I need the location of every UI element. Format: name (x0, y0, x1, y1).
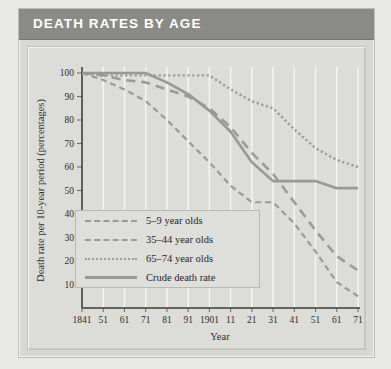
legend-item-crude: Crude death rate (76, 268, 259, 287)
legend-label-5-9: 5–9 year olds (146, 215, 203, 226)
legend-label-65-74: 65–74 year olds (146, 253, 213, 264)
svg-text:91: 91 (183, 315, 193, 325)
legend-swatch-5-9-icon (85, 220, 137, 222)
legend-item-5-9: 5–9 year olds (76, 211, 259, 230)
legend-swatch-35-44-icon (85, 239, 137, 241)
svg-text:60: 60 (65, 162, 75, 172)
legend-item-35-44: 35–44 year olds (76, 230, 259, 249)
svg-text:81: 81 (162, 315, 172, 325)
svg-text:90: 90 (65, 92, 75, 102)
svg-text:71: 71 (141, 315, 151, 325)
legend-label-35-44: 35–44 year olds (146, 234, 213, 245)
svg-text:71: 71 (353, 315, 363, 325)
svg-text:30: 30 (65, 233, 75, 243)
svg-text:61: 61 (332, 315, 342, 325)
x-axis-title: Year (210, 331, 230, 342)
svg-text:100: 100 (60, 68, 75, 78)
y-axis-tick-labels: 102030405060708090100 (60, 68, 75, 290)
legend-swatch-65-74-icon (85, 258, 137, 260)
svg-text:41: 41 (290, 315, 300, 325)
x-axis-tick-labels: 18415161718191190111213141516171 (73, 315, 364, 325)
svg-text:1841: 1841 (73, 315, 92, 325)
svg-text:61: 61 (120, 315, 130, 325)
chart-header-bar: DEATH RATES BY AGE (19, 9, 374, 40)
legend-swatch-crude-icon (85, 276, 137, 279)
y-axis-title: Death rate per 10-year period (percentag… (35, 99, 47, 282)
svg-text:80: 80 (65, 115, 75, 125)
svg-text:1901: 1901 (200, 315, 219, 325)
svg-text:31: 31 (268, 315, 278, 325)
svg-text:70: 70 (65, 139, 75, 149)
svg-text:51: 51 (98, 315, 108, 325)
chart-legend: 5–9 year olds 35–44 year olds 65–74 year… (75, 210, 260, 288)
svg-text:51: 51 (311, 315, 321, 325)
chart-panel: 102030405060708090100 184151617181911901… (27, 46, 366, 350)
svg-text:21: 21 (247, 315, 257, 325)
plot-area: 102030405060708090100 184151617181911901… (28, 47, 365, 349)
series-line-solid (82, 73, 358, 188)
line-chart-svg: 102030405060708090100 184151617181911901… (28, 47, 365, 349)
svg-text:40: 40 (65, 209, 75, 219)
page-title: DEATH RATES BY AGE (33, 16, 202, 31)
svg-text:11: 11 (226, 315, 235, 325)
svg-text:10: 10 (65, 280, 75, 290)
figure-card: DEATH RATES BY AGE 102030405060708090100… (18, 8, 375, 358)
legend-label-crude: Crude death rate (146, 272, 215, 283)
svg-text:50: 50 (65, 186, 75, 196)
svg-text:20: 20 (65, 256, 75, 266)
legend-item-65-74: 65–74 year olds (76, 249, 259, 268)
